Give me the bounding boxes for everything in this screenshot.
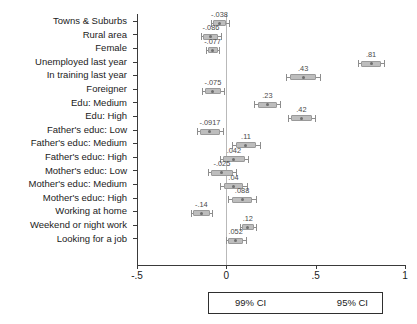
y-axis-label: Working at home (55, 206, 127, 216)
y-axis-label-row: Unemployed last year (0, 55, 131, 69)
estimate-row: -.14 (137, 204, 405, 218)
point-estimate-marker (300, 117, 303, 120)
ci95-cap (197, 128, 198, 135)
y-axis-label-row: Towns & Suburbs (0, 14, 131, 28)
x-axis-tick-label: 0 (224, 271, 230, 281)
point-estimate-label: .04 (228, 174, 238, 181)
estimate-row: .11 (137, 136, 405, 150)
point-estimate-label: .23 (262, 92, 272, 99)
point-estimate-label: .43 (298, 65, 308, 72)
x-axis-tick-label: .5 (311, 271, 319, 281)
ci95-cap (254, 101, 255, 108)
y-axis-labels: Towns & SuburbsRural areaFemaleUnemploye… (0, 14, 131, 245)
ci95-cap (246, 237, 247, 244)
legend-box: 99% CI 95% CI (208, 292, 383, 314)
point-estimate-label: .11 (241, 133, 251, 140)
point-estimate-label: -.038 (211, 11, 228, 18)
coefficient-plot-figure: Towns & SuburbsRural areaFemaleUnemploye… (0, 0, 417, 324)
ci95-cap (260, 142, 261, 149)
estimate-row: -.0917 (137, 123, 405, 137)
estimate-row: .81 (137, 55, 405, 69)
y-axis-label-row: Edu: Medium (0, 96, 131, 110)
y-axis-label: Father's educ: Low (47, 125, 127, 135)
y-axis-label-row: Mother's educ: Medium (0, 177, 131, 191)
estimate-row: .04 (137, 177, 405, 191)
ci95-cap (223, 128, 224, 135)
ci95-cap (248, 156, 249, 163)
y-axis-label: Weekend or night work (30, 220, 127, 230)
point-estimate-marker (200, 212, 203, 215)
point-estimate-label: .81 (366, 51, 376, 58)
ci95-cap (219, 47, 220, 54)
estimate-row: .23 (137, 96, 405, 110)
ci95-cap (315, 115, 316, 122)
estimate-row: -.038 (137, 14, 405, 28)
x-axis-line (137, 265, 405, 266)
point-estimate-label: .052 (228, 228, 242, 235)
ci95-cap (286, 74, 287, 81)
y-axis-label: Unemployed last year (35, 57, 127, 67)
ci95-cap (256, 196, 257, 203)
y-axis-label: Edu: Medium (71, 98, 127, 108)
y-axis-label-row: Looking for a job (0, 232, 131, 246)
y-axis-label: Mother's educ: High (43, 193, 127, 203)
ci95-cap (384, 60, 385, 67)
y-axis-label: Mother's educ: Medium (29, 179, 127, 189)
y-axis-label: Father's educ: Medium (31, 138, 127, 148)
y-axis-label-row: In training last year (0, 68, 131, 82)
ci95-cap (358, 60, 359, 67)
point-estimate-label: -.075 (204, 79, 221, 86)
ci95-cap (224, 88, 225, 95)
legend-label-99ci: 99% CI (235, 298, 266, 308)
ci95-cap (220, 183, 221, 190)
y-axis-label: Towns & Suburbs (53, 16, 127, 26)
plot-area: -.50.51 -.038-.086-.077.81.43-.075.23.42… (137, 14, 405, 265)
y-axis-label-row: Mother's educ: Low (0, 164, 131, 178)
x-axis-tick-label: -.5 (131, 271, 143, 281)
point-estimate-label: -.077 (204, 38, 221, 45)
point-estimate-label: -.086 (203, 24, 220, 31)
ci95-cap (226, 237, 227, 244)
estimate-row: -.077 (137, 41, 405, 55)
point-estimate-label: -.14 (195, 201, 208, 208)
ci95-cap (208, 169, 209, 176)
y-axis-label: Looking for a job (57, 234, 127, 244)
x-axis-tick (405, 265, 406, 269)
y-axis-label-row: Father's educ: High (0, 150, 131, 164)
ci95-cap (320, 74, 321, 81)
y-axis-label: Female (95, 43, 127, 53)
y-axis-label-row: Father's educ: Low (0, 123, 131, 137)
estimate-row: -.086 (137, 28, 405, 42)
estimate-row: -.025 (137, 164, 405, 178)
ci95-cap (280, 101, 281, 108)
y-axis-label: Rural area (83, 30, 127, 40)
y-axis-label-row: Weekend or night work (0, 218, 131, 232)
y-axis-label: Foreigner (86, 84, 127, 94)
point-estimate-label: .042 (227, 147, 241, 154)
ci95-cap (191, 210, 192, 217)
y-axis-label: Edu: High (85, 111, 127, 121)
y-axis-label: Father's educ: High (45, 152, 127, 162)
point-estimate-marker (302, 76, 305, 79)
y-axis-label-row: Mother's educ: High (0, 191, 131, 205)
point-estimate-label: .12 (243, 215, 253, 222)
estimate-row: .052 (137, 232, 405, 246)
y-axis-label-row: Working at home (0, 204, 131, 218)
y-axis-label-row: Edu: High (0, 109, 131, 123)
x-axis-tick (137, 265, 138, 269)
estimate-row: .42 (137, 109, 405, 123)
point-estimate-label: -.0917 (199, 119, 220, 126)
x-axis-tick (226, 265, 227, 269)
y-axis-label: Mother's educ: Low (45, 166, 127, 176)
y-axis-label-row: Rural area (0, 28, 131, 42)
estimate-row: .43 (137, 68, 405, 82)
ci95-cap (212, 210, 213, 217)
x-axis-tick-label: 1 (402, 271, 408, 281)
y-axis-label-row: Father's educ: Medium (0, 136, 131, 150)
y-axis-label-row: Female (0, 41, 131, 55)
legend-label-95ci: 95% CI (337, 298, 368, 308)
ci95-cap (229, 20, 230, 27)
ci95-cap (256, 224, 257, 231)
ci95-cap (288, 115, 289, 122)
estimate-row: .042 (137, 150, 405, 164)
